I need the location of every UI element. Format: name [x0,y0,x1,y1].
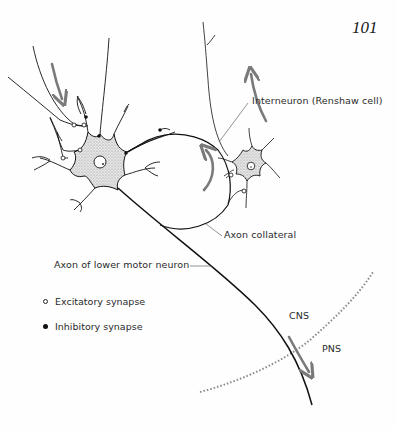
textbook-page: 101 [0,0,397,430]
motor-neuron [8,38,175,212]
label-cns: CNS [289,310,309,321]
cns-pns-boundary [200,272,373,392]
legend-label: Inhibitory synapse [55,321,142,332]
open-circle-icon [43,299,48,304]
neuron-diagram [0,0,397,430]
filled-circle-icon [43,324,48,329]
renshaw-cell [203,22,280,208]
motor-axon [118,188,312,405]
motor-neuron-nucleus [94,156,106,168]
axon-collateral [128,134,230,229]
label-pns: PNS [322,343,341,354]
legend-excitatory: Excitatory synapse [43,296,145,307]
leader-lines [190,103,248,266]
renshaw-nucleus [247,162,255,170]
arrow-afferent-icon [52,64,62,99]
label-axon-collateral: Axon collateral [224,229,296,240]
motor-neuron-nucleolus [102,163,104,165]
label-interneuron: Interneuron (Renshaw cell) [252,95,383,106]
arrow-collateral-icon [204,150,213,190]
legend-label: Excitatory synapse [55,296,145,307]
legend-inhibitory: Inhibitory synapse [43,321,142,332]
label-axon-motor: Axon of lower motor neuron [54,259,189,270]
